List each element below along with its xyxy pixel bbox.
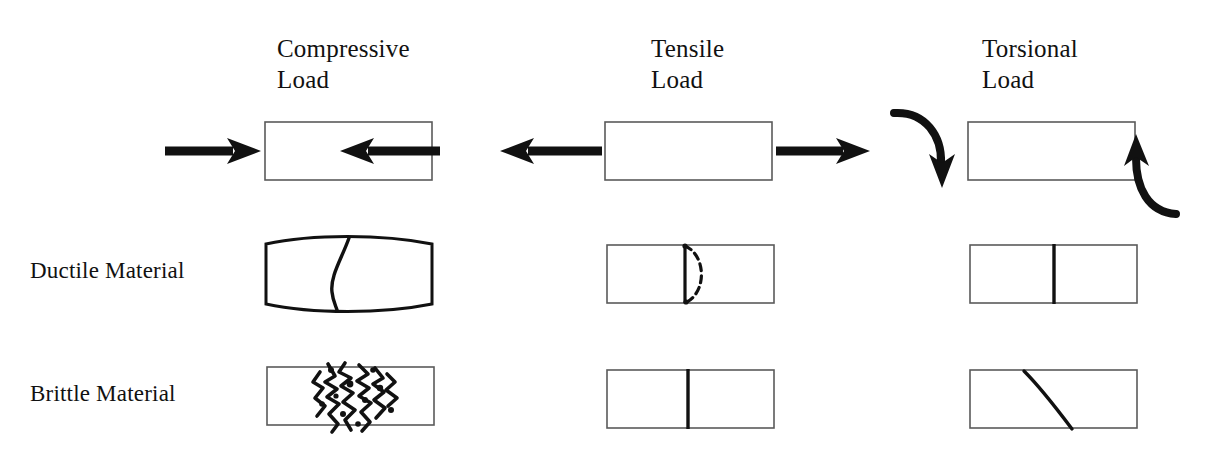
specimen-rect xyxy=(607,245,774,303)
specimen-rect xyxy=(970,370,1137,428)
arrow-left-outward-icon xyxy=(500,138,602,164)
cell-brittle-tensile xyxy=(605,365,783,435)
column-header-torsional-load: Torsional Load xyxy=(982,33,1078,95)
row-label-brittle-material: Brittle Material xyxy=(30,381,176,407)
cell-load-tensile xyxy=(498,112,798,192)
arrow-left-inward-icon xyxy=(165,138,261,164)
cell-ductile-torsional xyxy=(968,240,1146,310)
column-header-compressive-load: Compressive Load xyxy=(277,33,410,95)
cell-load-torsional xyxy=(880,92,1190,222)
cell-ductile-compressive xyxy=(262,232,442,320)
failure-modes-diagram: Compressive Load Tensile Load Torsional … xyxy=(0,0,1219,459)
specimen-rect xyxy=(605,122,772,180)
specimen-rect xyxy=(968,122,1135,180)
column-header-tensile-load: Tensile Load xyxy=(651,33,724,95)
cell-brittle-compressive xyxy=(265,362,443,437)
row-label-ductile-material: Ductile Material xyxy=(30,258,185,284)
cell-load-compressive xyxy=(155,112,445,192)
cell-brittle-torsional xyxy=(968,365,1146,435)
crack-tip-top xyxy=(682,243,687,248)
specimen-rect xyxy=(607,370,774,428)
arrow-right-outward-icon xyxy=(776,138,870,164)
curved-arrow-left-down-icon xyxy=(894,113,955,188)
crack-tip-bottom xyxy=(683,299,688,304)
barreled-specimen-outline xyxy=(266,237,432,312)
cell-ductile-tensile xyxy=(605,240,783,310)
